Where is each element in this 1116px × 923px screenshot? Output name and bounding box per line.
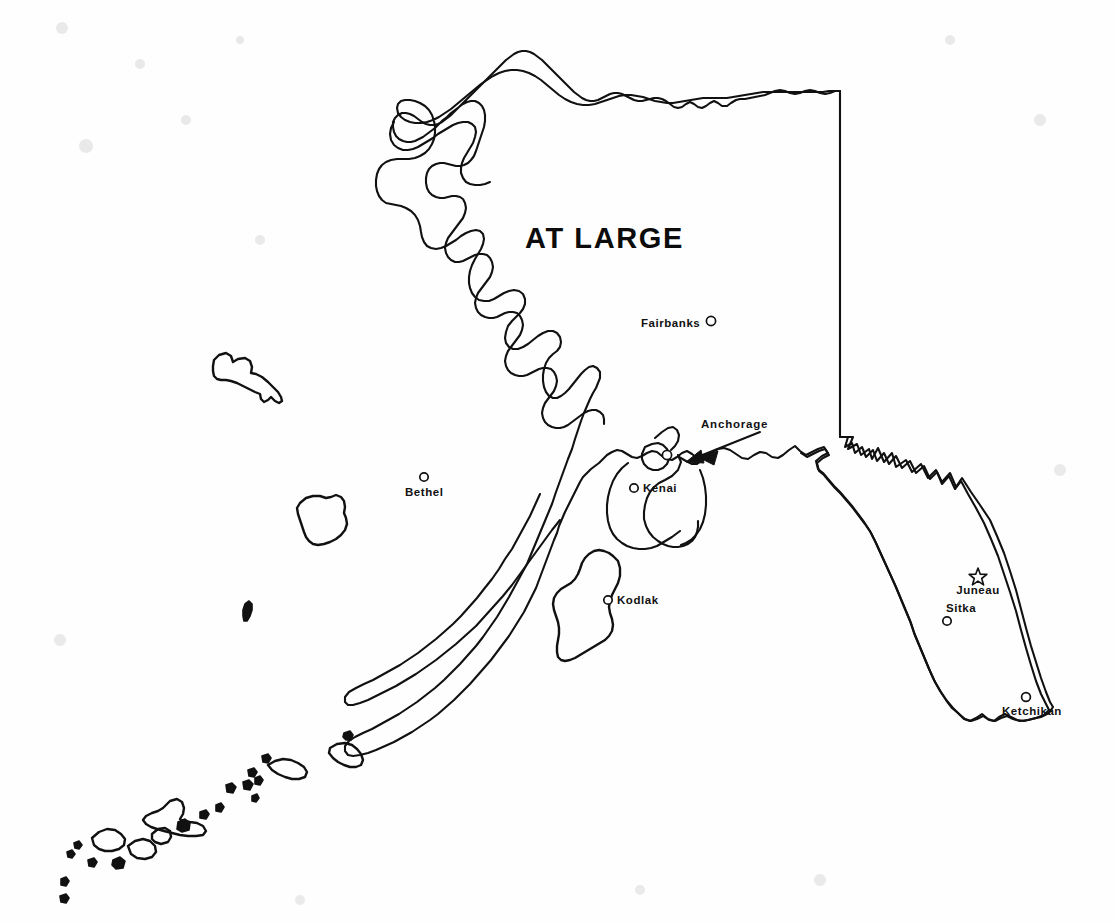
circle-marker-icon [420, 473, 428, 481]
city-marker-kenai[interactable]: Kenai [630, 482, 677, 494]
city-label-bethel: Bethel [405, 486, 443, 498]
st-lawrence-island [213, 353, 282, 403]
aleutian-islands [60, 731, 363, 903]
city-marker-fairbanks[interactable]: Fairbanks [641, 316, 716, 329]
city-label-sitka: Sitka [946, 602, 976, 614]
nunivak-island [297, 495, 347, 545]
city-label-fairbanks: Fairbanks [641, 317, 700, 329]
city-label-kenai: Kenai [643, 482, 677, 494]
scan-artifacts [54, 22, 1066, 905]
offshore-islands [213, 353, 347, 621]
map-page: AT LARGE Fairbanks Bethel Anchorage [0, 0, 1116, 923]
cook-inlet [642, 427, 701, 470]
city-label-kodiak: Kodlak [617, 594, 659, 606]
circle-marker-icon [604, 596, 612, 604]
city-marker-ketchikan[interactable]: Ketchikan [1002, 693, 1062, 717]
city-marker-bethel[interactable]: Bethel [405, 473, 443, 498]
city-marker-sitka[interactable]: Sitka [943, 602, 976, 625]
pribilof-islet [243, 601, 252, 621]
alaska-peninsula [345, 494, 560, 705]
alaska-map-svg: AT LARGE Fairbanks Bethel Anchorage [0, 0, 1116, 923]
circle-marker-icon [943, 617, 951, 625]
city-label-ketchikan: Ketchikan [1002, 705, 1062, 717]
district-title: AT LARGE [525, 222, 684, 254]
city-marker-juneau[interactable]: Juneau [956, 568, 1000, 596]
city-label-juneau: Juneau [956, 584, 1000, 596]
circle-marker-icon [630, 484, 638, 492]
star-marker-icon [969, 568, 987, 585]
alaska-mainland-outline [345, 70, 1053, 756]
circle-marker-icon [662, 450, 671, 459]
circle-marker-icon [706, 316, 715, 325]
kodiak-island [553, 550, 620, 661]
city-markers: Fairbanks Bethel Anchorage Kenai Kodlak [405, 316, 1062, 717]
city-label-anchorage: Anchorage [701, 418, 768, 430]
circle-marker-icon [1022, 693, 1031, 702]
